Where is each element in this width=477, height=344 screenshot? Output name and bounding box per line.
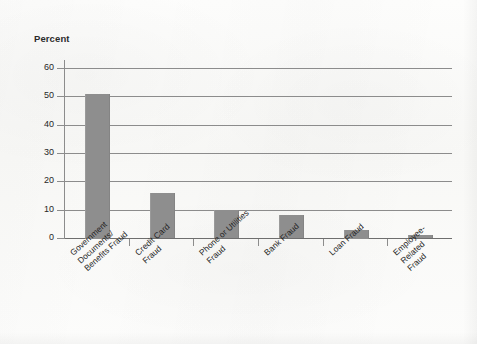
x-axis-tick [387, 239, 388, 246]
y-tick-mark-40 [57, 125, 64, 126]
y-tick-label-0: 0 [28, 232, 54, 242]
gridline-40 [64, 125, 452, 126]
y-tick-label-30: 30 [28, 147, 54, 157]
y-tick-label-50: 50 [28, 90, 54, 100]
y-tick-mark-50 [57, 96, 64, 97]
gridline-10 [64, 210, 452, 211]
x-axis-tick [129, 239, 130, 246]
gridline-30 [64, 153, 452, 154]
y-axis-line [64, 60, 65, 239]
y-tick-mark-30 [57, 153, 64, 154]
x-axis-tick [323, 239, 324, 246]
y-tick-label-10: 10 [28, 204, 54, 214]
chart-page: Percent 0102030405060 Government Documen… [0, 0, 477, 344]
bar-chart: Percent 0102030405060 Government Documen… [0, 0, 477, 344]
y-tick-mark-20 [57, 181, 64, 182]
x-axis-label: Loan Fraud [327, 221, 366, 257]
gridline-60 [64, 68, 452, 69]
y-axis-title: Percent [34, 33, 70, 44]
y-tick-mark-0 [57, 238, 64, 239]
x-axis-label: Employee- Related Fraud [391, 223, 442, 273]
y-tick-mark-10 [57, 210, 64, 211]
gridline-20 [64, 181, 452, 182]
gridline-50 [64, 96, 452, 97]
x-axis-tick [193, 239, 194, 246]
x-axis-tick [258, 239, 259, 246]
y-tick-mark-60 [57, 68, 64, 69]
x-axis-label: Government Documents/ Benefits Fraud [68, 214, 130, 274]
y-tick-label-40: 40 [28, 119, 54, 129]
y-tick-label-60: 60 [28, 62, 54, 72]
y-tick-label-20: 20 [28, 175, 54, 185]
